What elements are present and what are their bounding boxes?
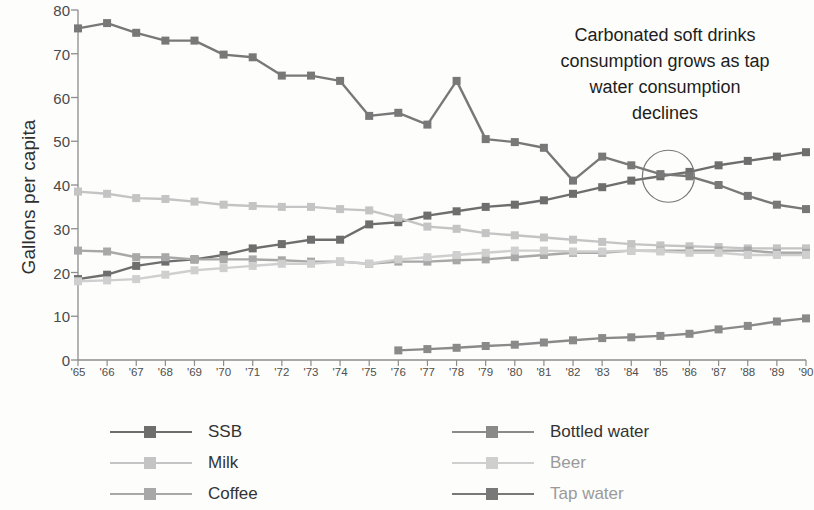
data-point-marker [278,203,286,211]
data-point-marker [569,336,577,344]
data-point-marker [627,333,635,341]
legend-item-milk[interactable]: Milk [110,447,450,478]
data-point-marker [278,240,286,248]
data-point-marker [249,244,257,252]
legend-item-ssb[interactable]: SSB [110,416,450,447]
data-point-marker [511,341,519,349]
data-point-marker [511,138,519,146]
chart-annotation: Carbonated soft drinksconsumption grows … [524,22,806,126]
data-point-marker [627,247,635,255]
x-axis-tick-label: '79 [478,366,493,378]
legend-item-bottled-water[interactable]: Bottled water [452,416,792,447]
legend-item-tap-water[interactable]: Tap water [452,478,792,509]
x-axis-tick-label: '87 [711,366,726,378]
data-point-marker [802,251,810,259]
data-point-marker [249,262,257,270]
data-point-marker [482,249,490,257]
data-point-marker [365,206,373,214]
data-point-marker [715,325,723,333]
data-point-marker [802,314,810,322]
data-point-marker [336,258,344,266]
data-point-marker [715,181,723,189]
series-beer [74,247,810,286]
data-point-marker [103,190,111,198]
series-line [78,192,806,249]
legend-column-left: SSBMilkCoffee [110,416,450,509]
x-axis-tick-label: '73 [303,366,318,378]
data-point-marker [161,195,169,203]
x-axis-tick-label: '70 [216,366,231,378]
x-axis-tick-label: '66 [100,366,115,378]
data-point-marker [74,188,82,196]
data-point-marker [307,203,315,211]
legend-marker [486,457,498,469]
data-point-marker [365,220,373,228]
data-point-marker [161,271,169,279]
data-point-marker [220,255,228,263]
data-point-marker [132,29,140,37]
data-point-marker [744,251,752,259]
data-point-marker [569,190,577,198]
legend-marker [486,426,498,438]
data-point-marker [598,153,606,161]
annotation-line: water consumption [524,74,806,100]
legend-item-beer[interactable]: Beer [452,447,792,478]
x-axis-tick-label: '88 [740,366,755,378]
x-axis-tick-label: '83 [595,366,610,378]
data-point-marker [482,229,490,237]
data-point-marker [365,112,373,120]
data-point-marker [453,207,461,215]
legend-swatch-icon [110,487,192,501]
legend-marker [144,457,156,469]
data-point-marker [423,345,431,353]
x-axis-tick-label: '76 [391,366,406,378]
data-point-marker [773,318,781,326]
data-point-marker [511,201,519,209]
data-point-marker [453,344,461,352]
data-point-marker [598,334,606,342]
series-ssb [74,148,810,283]
data-point-marker [103,19,111,27]
legend-item-coffee[interactable]: Coffee [110,478,450,509]
data-point-marker [686,172,694,180]
x-axis-tick-label: '84 [624,366,639,378]
data-point-marker [423,253,431,261]
x-axis-tick-label: '67 [129,366,144,378]
x-axis-tick-label: '71 [245,366,260,378]
data-point-marker [365,260,373,268]
data-point-marker [191,37,199,45]
data-point-marker [132,275,140,283]
series-bottled-water [394,314,810,354]
x-axis-tick-label: '90 [799,366,814,378]
data-point-marker [482,203,490,211]
data-point-marker [220,264,228,272]
data-point-marker [598,248,606,256]
data-point-marker [540,247,548,255]
data-point-marker [627,161,635,169]
chart-legend: SSBMilkCoffee Bottled waterBeerTap water [0,416,808,510]
data-point-marker [307,260,315,268]
x-axis-tick-label: '74 [333,366,348,378]
x-axis-tick-label: '80 [507,366,522,378]
data-point-marker [453,77,461,85]
data-point-marker [686,249,694,257]
data-point-marker [482,135,490,143]
data-point-marker [569,248,577,256]
x-axis-tick-label: '72 [274,366,289,378]
data-point-marker [540,144,548,152]
data-point-marker [627,177,635,185]
legend-label: Milk [208,453,238,473]
data-point-marker [656,170,664,178]
legend-label: SSB [208,422,242,442]
data-point-marker [394,109,402,117]
legend-marker [486,488,498,500]
data-point-marker [773,153,781,161]
data-point-marker [103,276,111,284]
x-axis-tick-label: '86 [682,366,697,378]
data-point-marker [394,255,402,263]
data-point-marker [161,253,169,261]
data-point-marker [278,72,286,80]
data-point-marker [598,183,606,191]
data-point-marker [744,157,752,165]
